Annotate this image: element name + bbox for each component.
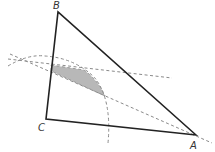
- vertex-label-c: C: [38, 122, 45, 133]
- geometry-diagram: B C A: [0, 0, 215, 152]
- vertex-label-a: A: [189, 140, 197, 151]
- vertex-label-b: B: [53, 0, 60, 11]
